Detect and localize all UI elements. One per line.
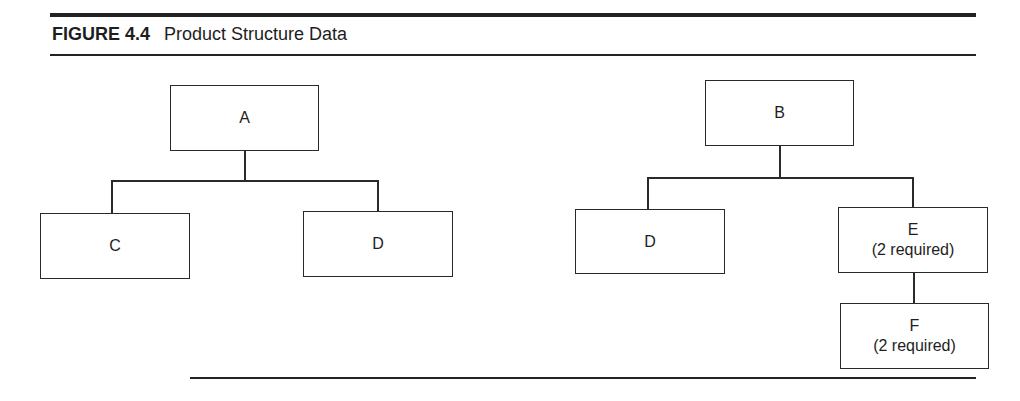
connector — [913, 272, 915, 304]
connector — [111, 180, 113, 214]
node-quantity: (2 required) — [873, 336, 956, 356]
figure-number: FIGURE 4.4 — [52, 24, 150, 44]
connector — [779, 145, 781, 178]
node-label: E — [908, 220, 919, 240]
node-d-right: D — [575, 209, 725, 274]
node-label: C — [109, 236, 121, 256]
connector — [111, 180, 379, 182]
connector — [647, 177, 649, 210]
top-thick-rule — [50, 13, 976, 17]
node-label: A — [239, 108, 250, 128]
node-label: F — [910, 316, 920, 336]
node-label: D — [644, 232, 656, 252]
node-label: B — [774, 103, 785, 123]
connector — [244, 150, 246, 181]
node-e: E (2 required) — [838, 207, 988, 273]
node-c: C — [40, 213, 190, 279]
node-f: F (2 required) — [840, 303, 989, 369]
node-a: A — [170, 85, 319, 151]
bottom-rule — [190, 377, 976, 379]
figure-title: Product Structure Data — [164, 24, 347, 44]
connector — [912, 177, 914, 208]
node-b: B — [705, 80, 854, 146]
node-d-left: D — [303, 211, 453, 277]
connector — [647, 177, 914, 179]
node-quantity: (2 required) — [872, 240, 955, 260]
connector — [377, 180, 379, 212]
figure-caption: FIGURE 4.4Product Structure Data — [52, 24, 347, 45]
caption-underline — [50, 54, 976, 56]
node-label: D — [372, 234, 384, 254]
